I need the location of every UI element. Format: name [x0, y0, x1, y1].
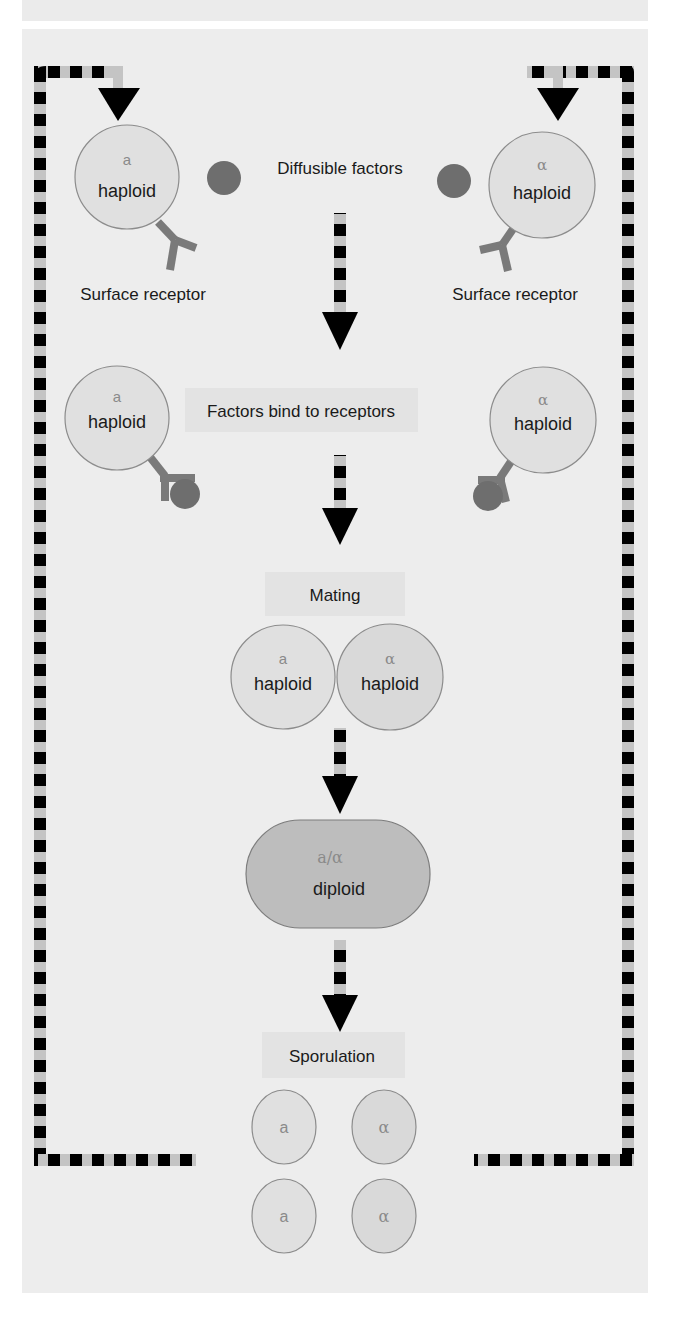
spore: a — [252, 1179, 316, 1253]
cell-label: haploid — [254, 674, 312, 694]
mating-type-label: α — [379, 1118, 390, 1137]
mating-type-label: a — [280, 1208, 289, 1225]
mating-type-label: α — [385, 650, 395, 668]
row3-right-cell: α haploid — [337, 624, 443, 730]
sporulation-label: Sporulation — [289, 1047, 375, 1066]
mating-type-label: α — [379, 1207, 390, 1226]
yeast-life-cycle-diagram: a haploid Diffusible factors α haploid S… — [0, 0, 679, 1326]
mating-type-label: a — [280, 1119, 289, 1136]
mating-type-label: a/α — [317, 848, 343, 867]
diffusible-factor-dot — [437, 164, 471, 198]
cell-label: haploid — [514, 414, 572, 434]
arrow-down-icon — [322, 508, 358, 545]
bound-factor-dot — [170, 479, 200, 509]
cell-label: haploid — [513, 183, 571, 203]
surface-receptor-label: Surface receptor — [80, 285, 206, 304]
mating-type-label: a — [113, 388, 122, 405]
row1-left-receptor — [158, 222, 196, 270]
arrow-down-icon — [98, 88, 140, 121]
spore: a — [252, 1090, 316, 1164]
mating-type-label: α — [538, 391, 548, 409]
surface-receptor-label: Surface receptor — [452, 285, 578, 304]
arrow-down-icon — [322, 776, 358, 814]
row2-left-cell: a haploid — [65, 366, 169, 470]
factors-bind-label: Factors bind to receptors — [207, 402, 395, 421]
cell-label: haploid — [98, 181, 156, 201]
row1-right-cell: α haploid — [489, 132, 595, 238]
cell-label: haploid — [88, 412, 146, 432]
flow-arrow-3 — [322, 728, 358, 814]
diffusible-factor-dot — [207, 161, 241, 195]
arrow-down-icon — [537, 88, 579, 121]
spore: α — [352, 1090, 416, 1164]
row1-right-receptor — [480, 229, 513, 271]
flow-arrow-2 — [322, 455, 358, 545]
row2-left-receptor — [150, 457, 200, 509]
row2-right-cell: α haploid — [490, 367, 596, 473]
row1-left-cell: a haploid — [75, 125, 179, 229]
arrow-down-icon — [322, 312, 358, 350]
diploid-cell: a/α diploid — [246, 820, 430, 928]
mating-type-label: α — [537, 156, 547, 174]
mating-type-label: a — [279, 650, 288, 667]
diffusible-factors-label: Diffusible factors — [277, 159, 402, 178]
row2-right-receptor — [473, 460, 512, 511]
spore: α — [352, 1179, 416, 1253]
row3-left-cell: a haploid — [231, 625, 335, 729]
mating-type-label: a — [123, 151, 132, 168]
arrow-down-icon — [322, 995, 358, 1032]
flow-arrow-1 — [322, 213, 358, 350]
cell-label: haploid — [361, 674, 419, 694]
flow-arrow-4 — [322, 940, 358, 1032]
cell-label: diploid — [313, 879, 365, 899]
mating-label: Mating — [309, 586, 360, 605]
bound-factor-dot — [473, 481, 503, 511]
